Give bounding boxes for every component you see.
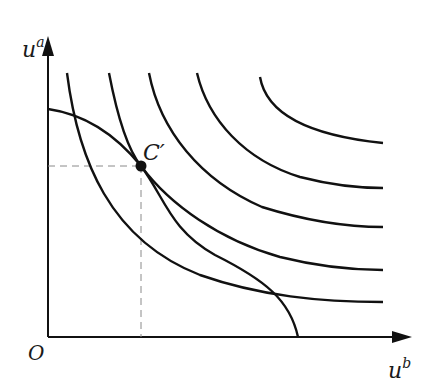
- indifference-curve-4: [197, 73, 383, 188]
- point-label: C′: [143, 140, 165, 165]
- diagram-canvas: ua ub O C′: [0, 0, 432, 386]
- axes: [42, 36, 412, 343]
- utility-frontier: [48, 109, 298, 337]
- indifference-curves: [67, 73, 383, 302]
- guides: [48, 166, 141, 337]
- origin-label: O: [28, 341, 44, 365]
- y-axis-label: ua: [22, 34, 45, 62]
- x-axis-arrow-icon: [392, 331, 412, 343]
- x-axis-label: ub: [388, 355, 411, 383]
- diagram-svg: ua ub O C′: [0, 0, 432, 386]
- indifference-curve-2: [109, 73, 383, 270]
- indifference-curve-5: [260, 77, 383, 143]
